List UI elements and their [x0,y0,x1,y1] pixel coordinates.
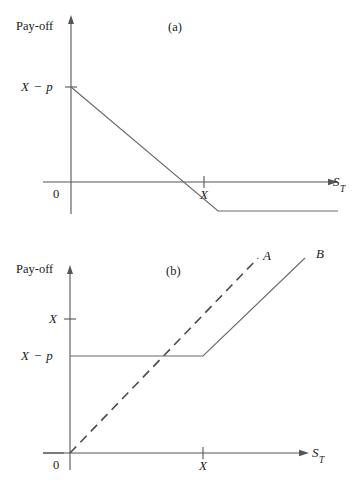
panel-b-x-axis-title: ST [312,446,324,463]
panel-a-y-tick-label-x-minus-p: X − p [21,80,53,93]
panel-b-y-tick-label-X: X [49,312,57,325]
panel-a-x-axis-title: ST [333,175,345,192]
panel-a-x-axis-title-base: S [333,174,340,189]
panel-b-graphics [43,258,309,470]
figure-root: Pay-off (a) X − p 0 X ST Pay-off (b) X X… [0,0,356,493]
panel-a-graphics [43,15,338,214]
panel-b-curve-label-A: A [263,249,271,262]
panel-b-label: (b) [166,265,181,278]
panel-b-x-axis-title-base: S [312,445,319,460]
panel-a-label: (a) [168,21,182,34]
panel-b-y-axis-arrow-icon [67,265,73,274]
panel-a-origin-label: 0 [53,188,59,201]
panel-a-y-axis-title: Pay-off [16,20,53,33]
panel-b-curve-B [70,258,305,356]
panel-a-x-tick-label-X: X [200,188,208,201]
panel-b-x-axis-arrow-icon [299,450,309,456]
panel-b-origin-label: 0 [53,459,59,472]
panel-a-y-tick-text: X − p [21,79,53,94]
panel-b-x-axis-title-subscript: T [319,455,324,465]
panel-b-y-tick-label-x-minus-p: X − p [21,349,53,362]
panel-b-y-tick-text: X − p [21,348,53,363]
panel-b-curve-label-B: B [316,247,324,260]
panel-a-x-axis-title-subscript: T [340,184,345,194]
figure-canvas [0,0,356,493]
panel-a-y-axis-arrow-icon [68,15,74,24]
panel-b-x-tick-label-X: X [199,459,207,472]
panel-b-y-axis-title: Pay-off [16,263,53,276]
